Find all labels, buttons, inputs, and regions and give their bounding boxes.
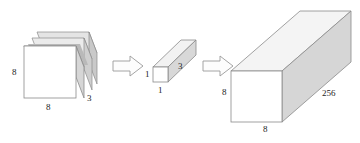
label-box-depth: 256 [322, 89, 336, 98]
output-volume [231, 11, 351, 122]
transform-arrow-1 [113, 56, 143, 76]
input-volume-layer-1 [24, 46, 84, 98]
label-bar-height: 1 [145, 70, 150, 79]
label-cube-depth: 3 [87, 94, 92, 103]
label-box-height: 8 [222, 88, 227, 97]
flattened-vector [153, 40, 196, 82]
label-cube-height: 8 [12, 68, 17, 77]
box-front-face [231, 71, 282, 122]
diagram-canvas [0, 0, 360, 143]
layer-1-front-face [24, 46, 76, 98]
label-bar-depth: 3 [178, 62, 183, 71]
label-bar-width: 1 [158, 86, 163, 95]
tensor-reshape-diagram: 8 8 3 1 1 3 8 8 256 [0, 0, 360, 143]
label-cube-width: 8 [46, 103, 51, 112]
bar-front-face [153, 67, 168, 82]
input-volume [24, 32, 97, 98]
transform-arrow-2 [203, 56, 233, 76]
label-box-width: 8 [263, 125, 268, 134]
